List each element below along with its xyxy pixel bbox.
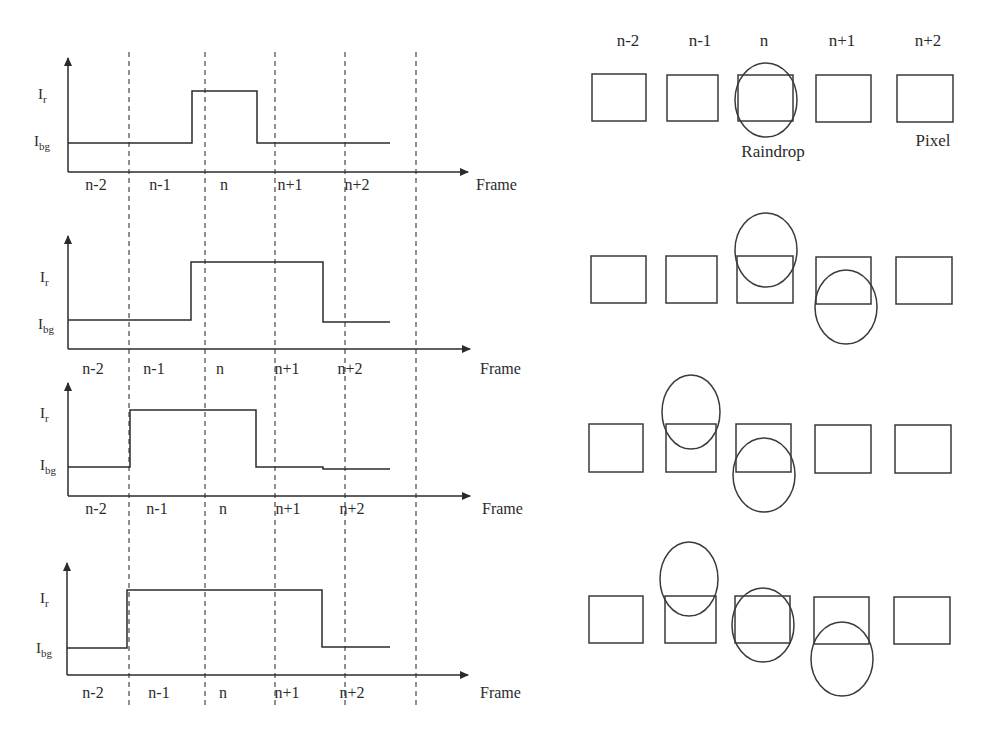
pixel-box — [897, 75, 953, 122]
column-label: n — [760, 31, 769, 50]
pixel-box — [738, 75, 793, 121]
frame-label: n-1 — [149, 176, 170, 193]
frame-label: n — [220, 176, 228, 193]
pixel-box — [895, 425, 951, 473]
frame-label: n+1 — [277, 176, 302, 193]
pixel-label: Pixel — [916, 131, 951, 150]
raindrop-ellipse — [662, 375, 720, 449]
y-label-ir: Ir — [40, 405, 49, 424]
frame-label: n — [219, 684, 227, 701]
pixel-row-4 — [589, 542, 950, 696]
pixel-row-2 — [591, 213, 952, 344]
raindrop-intensity-diagram: Ir Ibg n-2 n-1 n n+1 n+2 Frame Ir Ibg n-… — [0, 0, 992, 745]
frame-label: n-2 — [82, 684, 103, 701]
frame-label: n-1 — [146, 500, 167, 517]
y-label-ir: Ir — [40, 590, 49, 609]
pixel-box — [592, 74, 646, 121]
pixel-box — [591, 256, 646, 303]
pixel-box — [667, 75, 718, 121]
raindrop-label: Raindrop — [741, 142, 804, 161]
column-label: n-1 — [689, 31, 712, 50]
column-label: n-2 — [617, 31, 640, 50]
raindrop-ellipse — [811, 622, 873, 696]
raindrop-ellipse — [732, 588, 794, 662]
pixel-box — [665, 596, 716, 643]
raindrop-ellipse — [735, 63, 797, 137]
pixel-box — [894, 597, 950, 644]
intensity-signal-line — [67, 590, 390, 648]
frame-divider-lines — [129, 52, 416, 705]
x-axis-label: Frame — [480, 684, 521, 701]
frame-label: n+2 — [344, 176, 369, 193]
pixel-box — [815, 425, 871, 473]
pixel-box — [896, 257, 952, 304]
frame-label: n+1 — [275, 500, 300, 517]
pixel-row-3 — [589, 375, 951, 512]
pixel-box — [735, 596, 790, 643]
frame-label: n-2 — [85, 176, 106, 193]
x-axis-label: Frame — [476, 176, 517, 193]
y-label-ir: Ir — [38, 86, 47, 105]
frame-label: n — [219, 500, 227, 517]
intensity-signal-line — [68, 91, 390, 143]
intensity-signal-line — [68, 262, 390, 322]
y-label-ibg: Ibg — [36, 640, 53, 659]
frame-label: n-1 — [148, 684, 169, 701]
y-label-ibg: Ibg — [34, 133, 51, 152]
x-axis-label: Frame — [480, 360, 521, 377]
frame-label: n+2 — [339, 684, 364, 701]
frame-label: n+2 — [337, 360, 362, 377]
pixel-box — [666, 256, 717, 303]
pixel-box — [666, 424, 716, 472]
pixel-row-1 — [592, 63, 953, 137]
column-label: n+2 — [915, 31, 942, 50]
y-label-ir: Ir — [40, 269, 49, 288]
frame-label: n+1 — [274, 360, 299, 377]
y-label-ibg: Ibg — [40, 457, 57, 476]
frame-label: n-1 — [143, 360, 164, 377]
pixel-box — [589, 424, 643, 472]
y-label-ibg: Ibg — [38, 316, 55, 335]
intensity-plot-2: Ir Ibg n-2 n-1 n n+1 n+2 Frame — [38, 236, 521, 377]
intensity-plot-4: Ir Ibg n-2 n-1 n n+1 n+2 Frame — [36, 563, 521, 701]
frame-label: n-2 — [85, 500, 106, 517]
frame-label: n+2 — [339, 500, 364, 517]
pixel-box — [816, 75, 871, 122]
frame-label: n — [216, 360, 224, 377]
pixel-box — [736, 424, 791, 472]
intensity-signal-line — [68, 410, 390, 469]
column-label: n+1 — [829, 31, 856, 50]
frame-label: n+1 — [274, 684, 299, 701]
raindrop-ellipse — [733, 438, 795, 512]
raindrop-ellipse — [660, 542, 718, 616]
pixel-column-labels: n-2 n-1 n n+1 n+2 — [617, 31, 942, 50]
raindrop-ellipse — [815, 270, 877, 344]
pixel-box — [589, 596, 643, 643]
raindrop-ellipse — [735, 213, 797, 287]
x-axis-label: Frame — [482, 500, 523, 517]
pixel-box — [814, 597, 869, 644]
frame-label: n-2 — [82, 360, 103, 377]
intensity-plot-3: Ir Ibg n-2 n-1 n n+1 n+2 Frame — [40, 383, 523, 517]
